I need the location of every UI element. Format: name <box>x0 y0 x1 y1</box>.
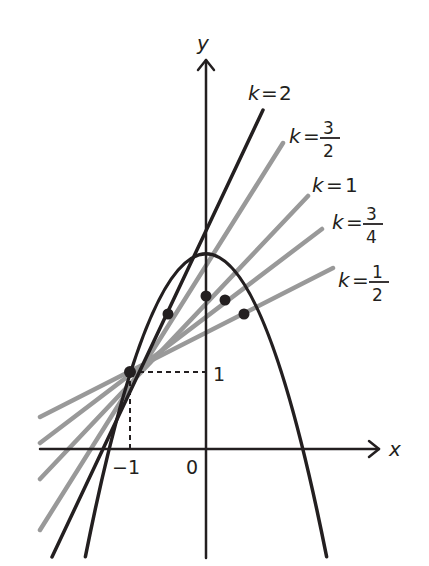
svg-text:2: 2 <box>279 81 292 105</box>
point-k-1 <box>201 291 212 302</box>
label-k-3-4: k = 3 4 <box>332 204 383 247</box>
x-tick-minus-one: −1 <box>112 456 140 478</box>
svg-text:k: k <box>332 210 345 234</box>
label-k-1-2: k = 1 2 <box>338 262 389 305</box>
x-axis-label: x <box>388 437 401 461</box>
svg-text:k: k <box>248 81 261 105</box>
y-axis-label: y <box>196 31 210 55</box>
svg-text:1: 1 <box>372 262 383 282</box>
point-k-3-2 <box>163 309 174 320</box>
svg-text:2: 2 <box>372 285 383 305</box>
svg-text:3: 3 <box>366 204 377 224</box>
line-k-3-2 <box>40 143 283 530</box>
label-k-3-2: k = 3 2 <box>289 118 340 161</box>
svg-text:=: = <box>326 173 343 197</box>
svg-text:=: = <box>261 81 278 105</box>
svg-text:4: 4 <box>366 227 377 247</box>
parabola-tangent-lines-figure: y x 0 −1 1 k = 2 k = 3 2 k = 1 k = 3 4 k… <box>0 0 429 566</box>
point-k-3-4 <box>220 295 231 306</box>
svg-text:k: k <box>312 173 325 197</box>
dashed-guides <box>130 372 206 449</box>
label-k-1: k = 1 <box>312 173 358 197</box>
svg-text:=: = <box>352 268 369 292</box>
svg-text:1: 1 <box>345 173 358 197</box>
origin-label: 0 <box>186 456 198 478</box>
point-k-1-2 <box>239 309 250 320</box>
svg-text:k: k <box>289 124 302 148</box>
svg-text:k: k <box>338 268 351 292</box>
svg-text:3: 3 <box>323 118 334 138</box>
y-tick-one: 1 <box>213 363 225 385</box>
line-k-3-4 <box>40 229 322 443</box>
svg-text:2: 2 <box>323 141 334 161</box>
label-k-2: k = 2 <box>248 81 292 105</box>
point-pivot <box>124 366 136 378</box>
svg-text:=: = <box>346 210 363 234</box>
svg-text:=: = <box>303 124 320 148</box>
line-k-2 <box>52 110 263 557</box>
